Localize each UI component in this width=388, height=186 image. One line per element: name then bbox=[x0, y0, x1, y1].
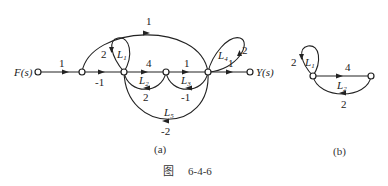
loop-label-b-l1: L1 bbox=[304, 56, 315, 70]
arrow-icon bbox=[299, 54, 304, 60]
gain-top-feedforward: 1 bbox=[146, 15, 152, 27]
node-b-1 bbox=[310, 73, 316, 79]
arrow-icon bbox=[109, 47, 114, 53]
gain-n1-to-n2: -1 bbox=[95, 76, 104, 88]
gain-b-back: 2 bbox=[341, 98, 347, 110]
arrow-icon bbox=[98, 70, 105, 75]
figure-caption-number: 6-4-6 bbox=[188, 165, 212, 177]
loop-label-l1: L1 bbox=[116, 48, 127, 62]
loop-label-b-l2: L2 bbox=[336, 79, 347, 93]
gain-f-to-n1: 1 bbox=[59, 57, 65, 69]
node-output bbox=[247, 69, 253, 75]
gain-n2-to-n3: 4 bbox=[146, 57, 152, 69]
node-input bbox=[35, 69, 41, 75]
arrow-icon bbox=[226, 70, 233, 75]
loop-label-l4: L4 bbox=[217, 49, 228, 63]
node-4 bbox=[205, 69, 211, 75]
gain-n4-self-loop: 2 bbox=[242, 44, 248, 56]
node-1 bbox=[79, 69, 85, 75]
graph-b: 2 4 2 L1 L2 (b) bbox=[291, 46, 374, 158]
gain-n4-to-n3-back: -1 bbox=[181, 91, 190, 103]
loop-label-l3: L3 bbox=[180, 74, 191, 88]
subfigure-b-label: (b) bbox=[333, 145, 346, 158]
output-label: Y(s) bbox=[256, 66, 274, 79]
node-3 bbox=[163, 69, 169, 75]
input-label: F(s) bbox=[13, 66, 33, 79]
gain-b-self-loop: 2 bbox=[291, 56, 297, 68]
gain-n3-to-n4: 1 bbox=[184, 57, 190, 69]
node-b-2 bbox=[368, 73, 374, 79]
gain-b-forward: 4 bbox=[345, 61, 351, 73]
node-2 bbox=[121, 69, 127, 75]
figure-caption-prefix: 图 bbox=[163, 165, 174, 177]
gain-n4-to-y: 1 bbox=[228, 57, 234, 69]
arrow-icon bbox=[336, 74, 343, 79]
gain-n2-self-loop: 2 bbox=[101, 48, 107, 60]
loop-label-l5: L5 bbox=[163, 106, 174, 120]
gain-n3-to-n2-back: 2 bbox=[143, 91, 149, 103]
gain-n4-to-n2-back: -2 bbox=[161, 125, 170, 137]
arrow-icon bbox=[62, 70, 69, 75]
signal-flow-graph-figure: F(s) Y(s) 1 -1 1 2 4 1 1 2 2 -1 -2 L1 L2… bbox=[0, 0, 388, 186]
loop-label-l2: L2 bbox=[138, 74, 149, 88]
graph-a: F(s) Y(s) 1 -1 1 2 4 1 1 2 2 -1 -2 L1 L2… bbox=[13, 15, 274, 156]
subfigure-a-label: (a) bbox=[154, 143, 167, 156]
